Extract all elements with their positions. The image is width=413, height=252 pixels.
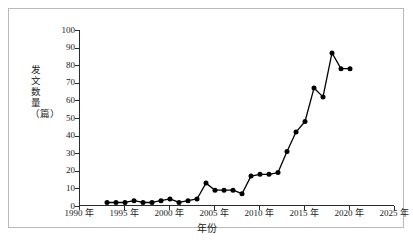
data-point: [240, 191, 245, 196]
y-tick-mark: [75, 48, 79, 49]
x-tick-mark: [304, 206, 305, 210]
y-tick-mark: [75, 171, 79, 172]
data-point: [267, 172, 272, 177]
data-point: [204, 181, 209, 186]
data-point: [285, 149, 290, 154]
y-tick-label: 60: [49, 96, 75, 105]
x-axis-ticks: 1990 年1995 年2000 年2005 年2010 年2015 年2020…: [79, 208, 394, 222]
data-point: [321, 94, 326, 99]
data-point: [258, 172, 263, 177]
y-tick-mark: [75, 136, 79, 137]
y-tick-label: 20: [49, 166, 75, 175]
series-line: [107, 53, 350, 203]
data-point: [312, 86, 317, 91]
data-point: [222, 188, 227, 193]
y-tick-label: 90: [49, 43, 75, 52]
x-axis-title: 年份: [9, 223, 405, 235]
data-point: [105, 200, 110, 205]
y-tick-label: 50: [49, 114, 75, 123]
x-tick-mark: [394, 206, 395, 210]
y-tick-mark: [75, 100, 79, 101]
y-tick-label: 10: [49, 184, 75, 193]
y-tick-mark: [75, 118, 79, 119]
data-point: [294, 130, 299, 135]
y-tick-mark: [75, 65, 79, 66]
data-point: [231, 188, 236, 193]
x-tick-mark: [259, 206, 260, 210]
x-tick-mark: [214, 206, 215, 210]
figure-root: 发文数量（篇） 0102030405060708090100 1990 年199…: [0, 0, 413, 252]
x-tick-mark: [169, 206, 170, 210]
data-point: [159, 198, 164, 203]
x-tick-mark: [124, 206, 125, 210]
line-series: [80, 30, 395, 206]
data-point: [123, 200, 128, 205]
data-point: [141, 200, 146, 205]
y-tick-label: 70: [49, 78, 75, 87]
y-tick-mark: [75, 153, 79, 154]
x-tick-mark: [79, 206, 80, 210]
data-point: [330, 50, 335, 55]
y-axis-title: 发文数量（篇）: [30, 65, 42, 120]
data-point: [168, 196, 173, 201]
y-tick-mark: [75, 188, 79, 189]
data-point: [213, 188, 218, 193]
plot-area: [79, 30, 394, 206]
y-tick-mark: [75, 83, 79, 84]
y-axis-ticks: 0102030405060708090100: [47, 30, 75, 206]
data-point: [303, 119, 308, 124]
data-point: [177, 200, 182, 205]
y-tick-label: 40: [49, 131, 75, 140]
x-tick-mark: [349, 206, 350, 210]
data-point: [150, 200, 155, 205]
data-point: [195, 196, 200, 201]
y-tick-label: 30: [49, 149, 75, 158]
data-point: [249, 174, 254, 179]
y-tick-mark: [75, 30, 79, 31]
data-point: [276, 170, 281, 175]
y-tick-label: 100: [49, 26, 75, 35]
chart-frame: 发文数量（篇） 0102030405060708090100 1990 年199…: [8, 8, 404, 228]
data-point: [114, 200, 119, 205]
data-point: [132, 198, 137, 203]
data-point: [339, 66, 344, 71]
data-point: [348, 66, 353, 71]
data-point: [186, 198, 191, 203]
y-tick-label: 80: [49, 61, 75, 70]
